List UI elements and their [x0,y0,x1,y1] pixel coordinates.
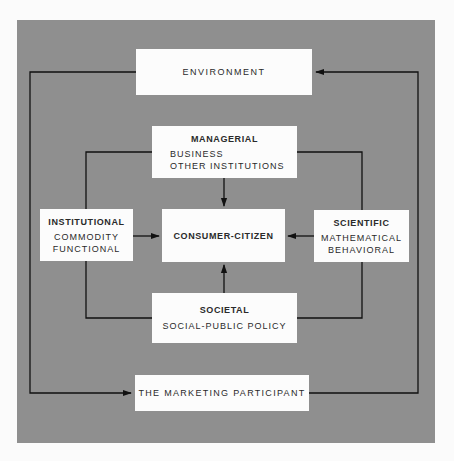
marketing-participant-title: THE MARKETING PARTICIPANT [138,387,305,399]
scientific-line-1: MATHEMATICAL [321,232,402,244]
scientific-title: SCIENTIFIC [333,217,389,229]
managerial-box: MANAGERIAL BUSINESS OTHER INSTITUTIONS [152,126,297,178]
institutional-line-2: FUNCTIONAL [53,243,121,255]
societal-box: SOCIETAL SOCIAL-PUBLIC POLICY [152,293,297,343]
societal-line-1: SOCIAL-PUBLIC POLICY [162,320,286,332]
environment-box: ENVIRONMENT [136,49,312,95]
environment-title: ENVIRONMENT [182,66,265,78]
consumer-citizen-box: CONSUMER-CITIZEN [162,209,285,262]
managerial-line-2: OTHER INSTITUTIONS [170,160,285,172]
marketing-participant-box: THE MARKETING PARTICIPANT [135,375,309,411]
scientific-line-2: BEHAVIORAL [328,244,395,256]
managerial-title: MANAGERIAL [191,133,258,145]
societal-title: SOCIETAL [200,304,250,316]
scientific-box: SCIENTIFIC MATHEMATICAL BEHAVIORAL [314,210,409,262]
managerial-line-1: BUSINESS [170,148,224,160]
institutional-line-1: COMMODITY [54,231,119,243]
institutional-title: INSTITUTIONAL [48,216,124,228]
consumer-citizen-title: CONSUMER-CITIZEN [173,230,273,242]
institutional-box: INSTITUTIONAL COMMODITY FUNCTIONAL [40,209,133,261]
